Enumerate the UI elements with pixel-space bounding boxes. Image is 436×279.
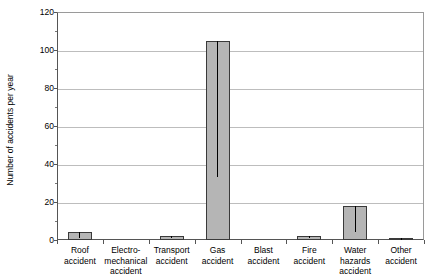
- y-tick-label: 20: [30, 198, 54, 207]
- x-axis-labels: Roof accidentElectro- mechanical acciden…: [57, 245, 424, 279]
- x-category-label: Electro- mechanical accident: [103, 245, 149, 277]
- x-category-label: Transport accident: [149, 245, 195, 266]
- error-bar: [355, 206, 356, 233]
- bar-group[interactable]: [149, 12, 195, 240]
- x-tick-mark: [241, 240, 242, 244]
- error-bar: [309, 236, 310, 238]
- bar-group[interactable]: [332, 12, 378, 240]
- accidents-bar-chart: Number of accidents per year 02040608010…: [0, 0, 436, 279]
- bar-group[interactable]: [57, 12, 103, 240]
- x-tick-mark: [149, 240, 150, 244]
- x-tick-mark: [57, 240, 58, 244]
- y-tick-label: 60: [30, 122, 54, 131]
- error-bar: [79, 232, 80, 238]
- y-tick-label: 40: [30, 160, 54, 169]
- x-tick-mark: [424, 240, 425, 244]
- bar-group[interactable]: [241, 12, 287, 240]
- y-axis-title: Number of accidents per year: [3, 10, 17, 250]
- bars-layer: [57, 12, 424, 240]
- error-bar: [171, 236, 172, 238]
- x-tick-mark: [195, 240, 196, 244]
- y-tick-label: 80: [30, 84, 54, 93]
- y-tick-label: 120: [30, 8, 54, 17]
- bar-group[interactable]: [103, 12, 149, 240]
- x-tick-mark: [286, 240, 287, 244]
- x-category-label: Blast accident: [241, 245, 287, 266]
- x-category-label: Water hazards accident: [332, 245, 378, 277]
- bar-group[interactable]: [378, 12, 424, 240]
- x-tick-mark: [332, 240, 333, 244]
- error-bar: [217, 41, 218, 178]
- y-tick-label: 0: [30, 236, 54, 245]
- x-category-label: Roof accident: [57, 245, 103, 266]
- x-tick-mark: [378, 240, 379, 244]
- y-axis-ticks: 020406080100120: [26, 0, 54, 279]
- x-tick-mark: [103, 240, 104, 244]
- x-category-label: Gas accident: [195, 245, 241, 266]
- x-category-label: Fire accident: [286, 245, 332, 266]
- x-category-label: Other accident: [378, 245, 424, 266]
- bar-group[interactable]: [286, 12, 332, 240]
- y-tick-label: 100: [30, 46, 54, 55]
- bar-group[interactable]: [195, 12, 241, 240]
